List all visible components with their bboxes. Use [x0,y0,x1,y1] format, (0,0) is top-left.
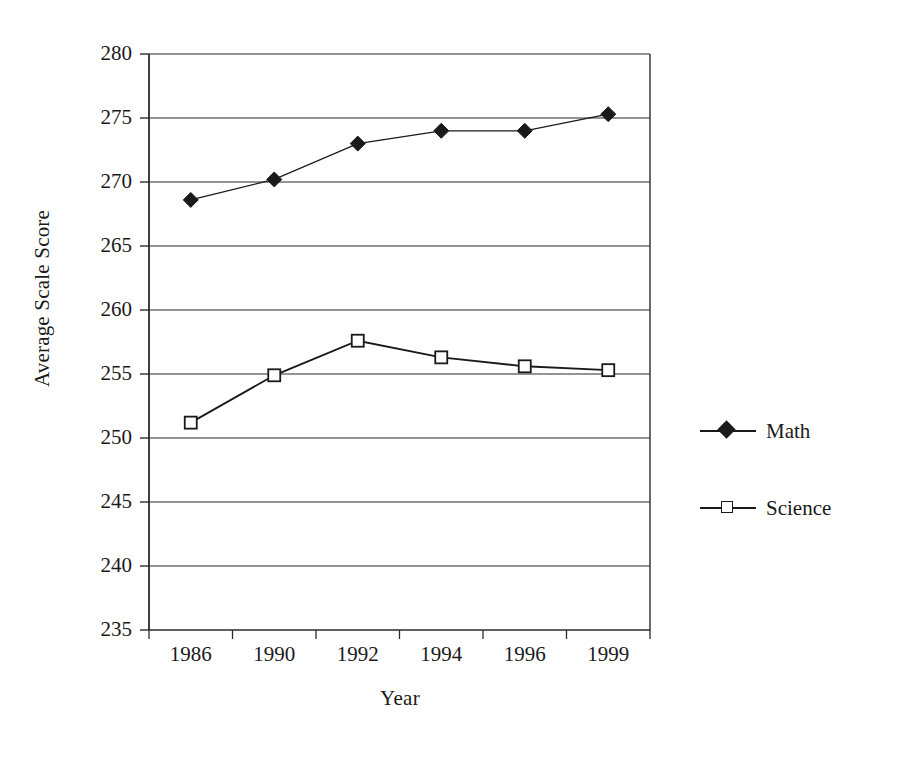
data-point-marker [352,335,364,347]
chart-figure: Average Scale Score 23524024525025526026… [0,0,905,758]
data-point-marker [268,369,280,381]
data-point-marker [267,172,282,187]
legend-item-math: Math [700,418,810,444]
legend-label: Science [766,496,831,521]
axis-lines [149,54,650,630]
data-point-marker [435,351,447,363]
data-series-layer [183,107,616,429]
data-point-marker [519,360,531,372]
data-point-marker [601,107,616,122]
series-line [191,341,609,423]
gridlines [149,54,650,630]
series-math [183,107,616,208]
y-axis-ticks [140,54,149,630]
legend-marker-open-square-icon [700,498,756,518]
legend-marker-filled-diamond-icon [700,421,756,441]
data-point-marker [183,192,198,207]
legend-marker-glyph [717,420,735,438]
series-science [185,335,615,429]
data-point-marker [350,136,365,151]
data-point-marker [602,364,614,376]
legend-marker-glyph [721,501,733,513]
data-point-marker [185,417,197,429]
series-line [191,114,609,200]
figure-caption [150,742,770,758]
data-point-marker [517,123,532,138]
legend-label: Math [766,419,810,444]
x-axis-ticks [149,630,650,639]
legend-item-science: Science [700,495,831,521]
data-point-marker [434,123,449,138]
x-axis-title: Year [150,686,650,711]
plot-area [0,0,905,758]
